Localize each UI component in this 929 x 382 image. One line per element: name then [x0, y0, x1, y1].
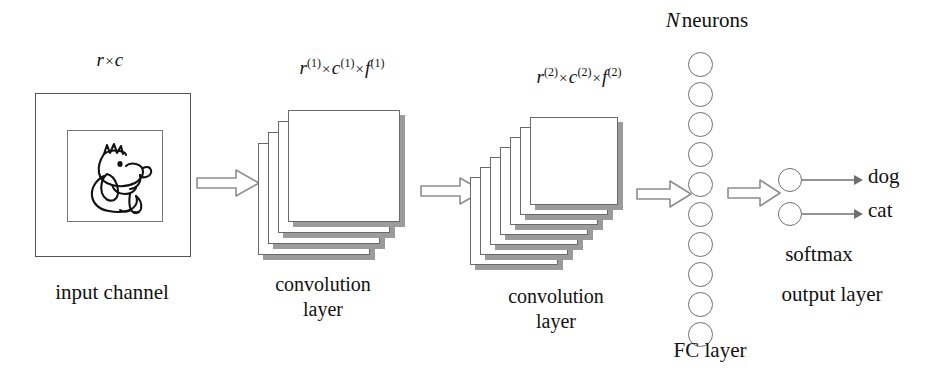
fc-neuron-4 [688, 142, 713, 167]
fc-neuron-column [688, 52, 728, 337]
conv2-card-1 [530, 117, 618, 205]
fc-neuron-6 [688, 202, 713, 227]
output-class-dog-label: dog [868, 165, 900, 187]
arrow-input-to-conv1-icon [196, 167, 262, 199]
conv1-dim-f-sup: (1) [371, 56, 385, 70]
conv2-dim-r: r [536, 66, 544, 87]
conv1-card-1 [288, 110, 400, 222]
cnn-architecture-figure: r×c [0, 0, 929, 382]
arrow-to-dog-icon [802, 172, 864, 188]
conv2-dim-times-1: × [558, 70, 569, 86]
input-channel-caption: input channel [55, 281, 169, 303]
fc-neuron-symbol: N [666, 8, 682, 32]
fc-neuron-5 [688, 172, 713, 197]
conv1-dim-c-sup: (1) [340, 56, 354, 70]
arrow-conv2-to-fc-icon [636, 178, 694, 210]
conv2-dimension-label: r(2)×c(2)×f(2) [536, 66, 621, 87]
conv1-dim-times-2: × [354, 61, 365, 77]
conv2-dim-times-2: × [591, 70, 602, 86]
fc-neuron-7 [688, 232, 713, 257]
output-class-cat-label: cat [868, 199, 892, 221]
output-neuron-cat [778, 202, 802, 226]
input-dim-times: × [104, 53, 115, 69]
conv2-dim-f-sup: (2) [608, 65, 622, 79]
fc-neurons-header: Nneurons [666, 9, 749, 31]
conv1-dim-r: r [299, 57, 307, 78]
conv1-dim-times-1: × [321, 61, 332, 77]
input-dimension-label: r×c [97, 50, 124, 70]
output-layer-caption: output layer [782, 283, 883, 305]
fc-layer-caption: FC layer [674, 339, 747, 361]
conv1-dimension-label: r(1)×c(1)×f(1) [299, 57, 384, 78]
softmax-caption: softmax [785, 243, 853, 265]
arrow-fc-to-output-icon [727, 177, 783, 209]
input-dim-r: r [97, 49, 105, 70]
conv2-dim-c-sup: (2) [577, 65, 591, 79]
fc-neuron-8 [688, 262, 713, 287]
conv1-dim-c: c [332, 57, 341, 78]
conv2-dim-r-sup: (2) [544, 65, 558, 79]
dog-illustration-icon [74, 134, 158, 220]
conv1-dim-r-sup: (1) [307, 56, 321, 70]
fc-neuron-9 [688, 292, 713, 317]
conv2-caption-line2: layer [536, 311, 576, 332]
conv1-caption-line2: layer [303, 299, 343, 320]
fc-neuron-3 [688, 112, 713, 137]
conv2-caption-line1: convolution [508, 286, 604, 307]
output-neuron-dog [778, 168, 802, 192]
fc-neuron-1 [688, 52, 713, 77]
conv1-caption-line1: convolution [275, 274, 371, 295]
conv2-dim-c: c [569, 66, 578, 87]
arrow-to-cat-icon [802, 206, 864, 222]
input-dim-c: c [115, 49, 124, 70]
fc-neuron-2 [688, 82, 713, 107]
fc-neuron-header-text: neurons [682, 8, 749, 32]
